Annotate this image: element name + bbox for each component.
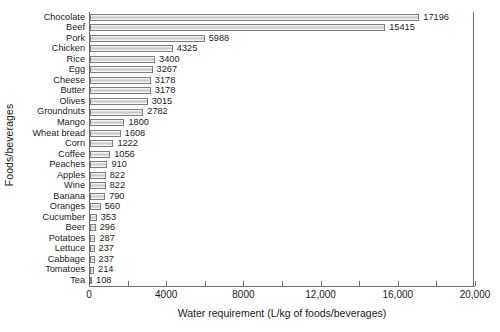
category-label: Beer — [18, 223, 87, 234]
x-axis-tick — [205, 281, 206, 286]
bar — [90, 45, 173, 52]
category-label: Tea — [18, 275, 87, 286]
category-label: Olives — [18, 96, 87, 107]
bar — [90, 87, 151, 94]
bar-row: 17196 — [90, 12, 473, 23]
bar — [90, 119, 124, 126]
bar-value-label: 237 — [99, 255, 114, 264]
bar-row: 5988 — [90, 33, 473, 44]
category-label: Groundnuts — [18, 107, 87, 118]
bar-value-label: 1222 — [117, 139, 137, 148]
horizontal-bar-chart: Foods/beverages ChocolateBeefPorkChicken… — [0, 0, 500, 332]
category-label: Corn — [18, 138, 87, 149]
bar — [90, 193, 105, 200]
category-label: Rice — [18, 54, 87, 65]
x-axis-tick — [398, 281, 399, 286]
category-label: Butter — [18, 86, 87, 97]
bar-row: 790 — [90, 191, 473, 202]
bar — [90, 214, 97, 221]
bar-value-label: 1800 — [128, 118, 148, 127]
bar-value-label: 17196 — [423, 13, 449, 22]
bar-row: 1056 — [90, 149, 473, 160]
bar — [90, 66, 153, 73]
bar-row: 296 — [90, 223, 473, 234]
bar — [90, 224, 96, 231]
bar — [90, 140, 113, 147]
category-label: Chocolate — [18, 12, 87, 23]
x-axis-title: Water requirement (L/kg of foods/beverag… — [89, 307, 475, 319]
bar-row: 822 — [90, 181, 473, 192]
bar-row: 287 — [90, 233, 473, 244]
x-axis-tick — [89, 281, 90, 286]
bar — [90, 98, 148, 105]
x-axis-tick — [128, 281, 129, 286]
x-axis-line — [89, 286, 475, 287]
x-axis-tick-labels: 04000800012,00016,00020,000 — [89, 289, 475, 303]
bar-value-label: 560 — [105, 202, 120, 211]
bar-value-label: 214 — [98, 265, 113, 274]
bar-value-label: 3400 — [159, 55, 179, 64]
bar-value-label: 790 — [109, 192, 124, 201]
bar-row: 910 — [90, 159, 473, 170]
bar — [90, 14, 419, 21]
x-axis-tick-label: 16,000 — [383, 289, 414, 300]
bar-row: 4325 — [90, 44, 473, 55]
category-label: Cabbage — [18, 254, 87, 265]
bar — [90, 35, 205, 42]
x-axis-tick-label: 20,000 — [460, 289, 491, 300]
bar-value-label: 287 — [99, 234, 114, 243]
category-label: Wine — [18, 181, 87, 192]
bar — [90, 182, 106, 189]
category-label: Beef — [18, 23, 87, 34]
plot-area: 1719615415598843253400326731783178301527… — [89, 12, 474, 286]
bar-row: 822 — [90, 170, 473, 181]
y-axis-title: Foods/beverages — [0, 0, 18, 290]
category-label: Wheat bread — [18, 128, 87, 139]
bar-row: 3178 — [90, 75, 473, 86]
category-label: Mango — [18, 117, 87, 128]
category-label: Egg — [18, 65, 87, 76]
bar-value-label: 3178 — [155, 86, 175, 95]
y-axis-title-text: Foods/beverages — [3, 104, 15, 187]
category-label: Potatoes — [18, 233, 87, 244]
category-label: Lettuce — [18, 244, 87, 255]
x-axis-tick — [282, 281, 283, 286]
x-axis-tick-label: 12,000 — [305, 289, 336, 300]
bar-series: 1719615415598843253400326731783178301527… — [90, 12, 473, 286]
bar — [90, 267, 94, 274]
bar-row: 3267 — [90, 65, 473, 76]
category-label: Tomatoes — [18, 265, 87, 276]
bar — [90, 235, 95, 242]
x-axis-tick — [436, 281, 437, 286]
bar-value-label: 5988 — [209, 34, 229, 43]
category-label: Pork — [18, 33, 87, 44]
bar — [90, 256, 95, 263]
bar — [90, 172, 106, 179]
x-axis-tick-label: 0 — [86, 289, 92, 300]
bar-row: 3178 — [90, 86, 473, 97]
bar-row: 560 — [90, 202, 473, 213]
x-axis-tick — [243, 281, 244, 286]
bar — [90, 24, 385, 31]
bar — [90, 161, 107, 168]
bar-value-label: 3015 — [152, 97, 172, 106]
bar-value-label: 1608 — [125, 129, 145, 138]
category-axis-labels: ChocolateBeefPorkChickenRiceEggCheeseBut… — [18, 12, 87, 286]
bar-value-label: 237 — [99, 244, 114, 253]
bar-value-label: 15415 — [389, 23, 415, 32]
bar — [90, 109, 143, 116]
x-axis-tick-label: 8000 — [232, 289, 254, 300]
bar-row: 237 — [90, 254, 473, 265]
bar — [90, 130, 121, 137]
bar — [90, 245, 95, 252]
bar-row: 214 — [90, 265, 473, 276]
bar-row: 3400 — [90, 54, 473, 65]
x-axis-tick — [359, 281, 360, 286]
bar-value-label: 2782 — [147, 107, 167, 116]
category-label: Cheese — [18, 75, 87, 86]
bar — [90, 56, 155, 63]
bar-value-label: 296 — [100, 223, 115, 232]
bar-row: 353 — [90, 212, 473, 223]
x-axis-tick-label: 4000 — [155, 289, 177, 300]
bar-row: 1608 — [90, 128, 473, 139]
